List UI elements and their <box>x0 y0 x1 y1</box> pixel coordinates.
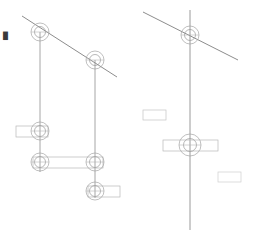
corner-registration-mark: █ <box>3 33 8 40</box>
technical-drawing <box>0 0 258 243</box>
drawing-canvas: █ <box>0 0 258 243</box>
canvas-background <box>0 0 258 243</box>
